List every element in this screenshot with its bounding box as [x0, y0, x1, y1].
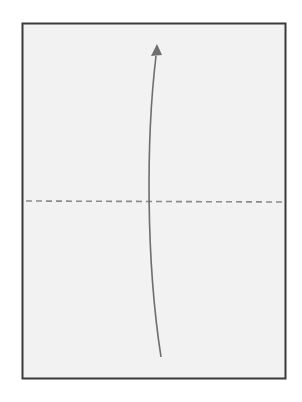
fold-diagram: [0, 0, 302, 402]
